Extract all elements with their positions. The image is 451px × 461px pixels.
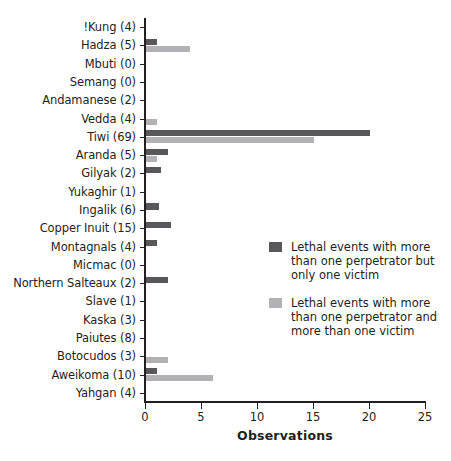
y-axis-tick xyxy=(140,192,145,193)
y-axis-tick-label: Yahgan (4) xyxy=(76,386,136,400)
y-axis-tick xyxy=(140,228,145,229)
y-axis-tick-label: Andamanese (2) xyxy=(42,93,136,107)
y-axis-tick xyxy=(140,173,145,174)
y-axis-tick xyxy=(140,82,145,83)
bar-light xyxy=(146,119,157,125)
y-axis-tick-label: Micmac (0) xyxy=(73,258,136,272)
y-axis-tick xyxy=(140,265,145,266)
y-axis-tick-label: Slave (1) xyxy=(86,294,136,308)
x-axis-tick-label: 0 xyxy=(141,410,148,424)
legend-item: Lethal events with more than one perpetr… xyxy=(269,296,447,339)
y-axis-tick xyxy=(140,210,145,211)
legend-swatch-light xyxy=(269,298,282,308)
bar-dark xyxy=(146,149,168,155)
y-axis-tick-label: Gilyak (2) xyxy=(81,166,136,180)
y-axis-tick-label: Copper Inuit (15) xyxy=(40,221,136,235)
y-axis-tick-label: Semang (0) xyxy=(70,75,136,89)
y-axis-tick-label: Vedda (4) xyxy=(81,112,136,126)
legend-swatch-dark xyxy=(269,242,282,252)
y-axis-tick xyxy=(140,155,145,156)
legend-label: Lethal events with more than one perpetr… xyxy=(291,240,447,283)
legend-label: Lethal events with more than one perpetr… xyxy=(291,296,447,339)
chart-row: Semang (0) xyxy=(145,73,425,91)
x-axis-tick xyxy=(201,403,202,409)
y-axis-tick xyxy=(140,320,145,321)
y-axis-tick xyxy=(140,45,145,46)
y-axis-tick xyxy=(140,356,145,357)
bar-light xyxy=(146,46,190,52)
bar-dark xyxy=(146,130,370,136)
bar-dark xyxy=(146,222,171,228)
y-axis-tick xyxy=(140,247,145,248)
chart-row: Mbuti (0) xyxy=(145,55,425,73)
y-axis-tick xyxy=(140,27,145,28)
y-axis-tick-label: Ingalik (6) xyxy=(79,203,136,217)
y-axis-tick-label: Aweikoma (10) xyxy=(51,368,136,382)
y-axis-tick xyxy=(140,100,145,101)
y-axis-tick-label: Paiutes (8) xyxy=(76,331,136,345)
chart-row: Aweikoma (10) xyxy=(145,365,425,383)
y-axis-tick xyxy=(140,301,145,302)
chart-row: !Kung (4) xyxy=(145,18,425,36)
bar-dark xyxy=(146,39,157,45)
bar-dark xyxy=(146,368,157,374)
bar-dark xyxy=(146,240,157,246)
chart-row: Yukaghir (1) xyxy=(145,183,425,201)
x-axis-tick xyxy=(145,403,146,409)
x-axis-tick-label: 5 xyxy=(197,410,204,424)
x-axis-tick xyxy=(313,403,314,409)
chart-row: Aranda (5) xyxy=(145,146,425,164)
y-axis-tick xyxy=(140,375,145,376)
chart-row: Hadza (5) xyxy=(145,36,425,54)
y-axis-tick xyxy=(140,119,145,120)
x-axis-tick-label: 15 xyxy=(306,410,321,424)
y-axis-tick xyxy=(140,393,145,394)
chart-row: Vedda (4) xyxy=(145,109,425,127)
y-axis-tick-label: Botocudos (3) xyxy=(57,349,136,363)
y-axis-tick xyxy=(140,137,145,138)
y-axis-tick-label: !Kung (4) xyxy=(83,20,136,34)
chart-row: Yahgan (4) xyxy=(145,384,425,402)
y-axis-tick xyxy=(140,64,145,65)
bar-light xyxy=(146,357,168,363)
y-axis-tick-label: Yukaghir (1) xyxy=(68,185,136,199)
y-axis-tick xyxy=(140,283,145,284)
x-axis-tick xyxy=(369,403,370,409)
bar-dark xyxy=(146,167,161,173)
chart-row: Ingalik (6) xyxy=(145,201,425,219)
legend-item: Lethal events with more than one perpetr… xyxy=(269,240,447,283)
y-axis-tick xyxy=(140,338,145,339)
x-axis-tick xyxy=(257,403,258,409)
chart-legend: Lethal events with more than one perpetr… xyxy=(269,240,447,351)
x-axis-tick-label: 10 xyxy=(250,410,265,424)
chart-row: Tiwi (69) xyxy=(145,128,425,146)
x-axis-tick xyxy=(425,403,426,409)
bar-light xyxy=(146,156,157,162)
y-axis-tick-label: Kaska (3) xyxy=(83,313,136,327)
bar-dark xyxy=(146,203,159,209)
y-axis-tick-label: Tiwi (69) xyxy=(87,130,136,144)
y-axis-tick-label: Montagnals (4) xyxy=(51,240,136,254)
x-axis-tick-label: 20 xyxy=(362,410,377,424)
chart-row: Copper Inuit (15) xyxy=(145,219,425,237)
bar-chart-figure: !Kung (4)Hadza (5)Mbuti (0)Semang (0)And… xyxy=(0,0,451,461)
bar-dark xyxy=(146,277,168,283)
x-axis-ticks: 0510152025 xyxy=(145,403,425,427)
y-axis-tick-label: Hadza (5) xyxy=(81,38,136,52)
x-axis-tick-label: 25 xyxy=(418,410,433,424)
y-axis-tick-label: Aranda (5) xyxy=(76,148,136,162)
bar-light xyxy=(146,375,213,381)
chart-row: Gilyak (2) xyxy=(145,164,425,182)
bar-light xyxy=(146,137,314,143)
y-axis-tick-label: Northern Salteaux (2) xyxy=(13,276,136,290)
chart-row: Andamanese (2) xyxy=(145,91,425,109)
x-axis-title: Observations xyxy=(145,428,425,443)
y-axis-tick-label: Mbuti (0) xyxy=(85,57,136,71)
